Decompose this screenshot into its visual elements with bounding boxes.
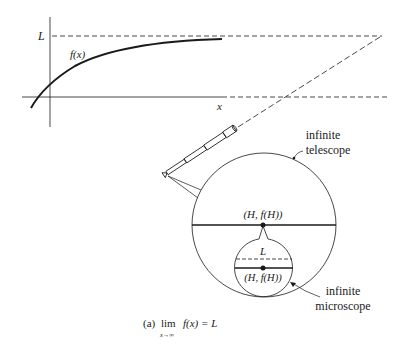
caption-prefix: (a) <box>143 317 156 330</box>
telescope-point-label: (H, f(H)) <box>243 208 282 221</box>
figure-caption: (a) lim x→∞ f(x) = L <box>143 317 217 338</box>
x-axis-label: x <box>216 100 222 112</box>
telescope-leader <box>294 151 303 158</box>
limit-label: L <box>37 29 45 43</box>
microscope-leader-arrow <box>290 282 296 287</box>
caption-lim: lim <box>161 317 176 329</box>
microscope-point <box>261 266 266 271</box>
microscope-label-line1: infinite <box>326 284 361 298</box>
function-curve <box>31 39 222 108</box>
telescope-leader-tip <box>293 157 296 160</box>
function-label: f(x) <box>70 48 86 61</box>
caption-expression: f(x) = L <box>183 317 217 330</box>
microscope-limit-label: L <box>259 245 266 257</box>
microscope-point-label: (H, f(H)) <box>244 272 282 284</box>
sight-line <box>238 37 380 127</box>
microscope-label-line2: microscope <box>315 299 370 313</box>
microscope-leader <box>292 283 320 297</box>
axes <box>22 17 387 127</box>
microscope-view-circle <box>235 226 293 297</box>
caption-subscript: x→∞ <box>159 331 174 338</box>
telescope-label-line1: infinite <box>306 128 341 142</box>
limit-diagram: L f(x) x (H, f(H)) L (H, f(H)) infinite … <box>0 0 405 354</box>
telescope-label-line2: telescope <box>306 143 351 157</box>
telescope-icon <box>162 125 238 179</box>
